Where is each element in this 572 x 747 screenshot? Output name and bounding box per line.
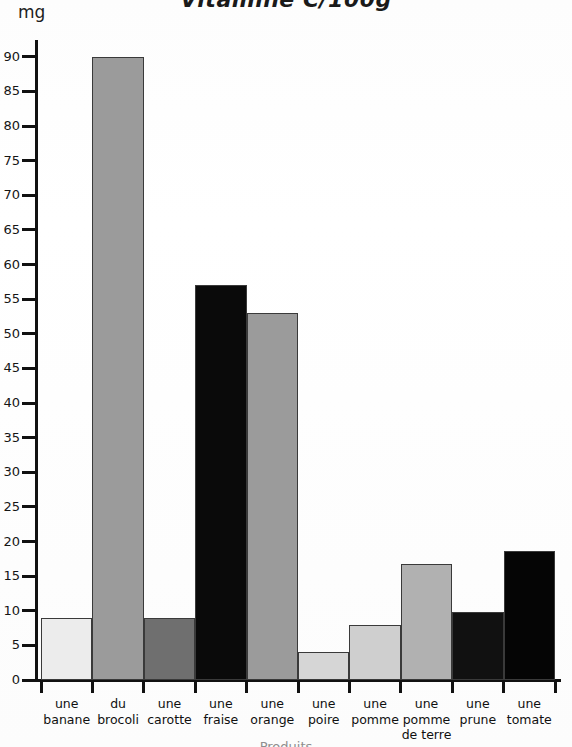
y-axis-tick (22, 55, 36, 58)
x-axis-category-label: unebanane (41, 696, 92, 727)
y-axis-tick-label: 10 (0, 604, 20, 617)
bar[interactable] (92, 57, 143, 680)
x-axis-tick (40, 680, 43, 693)
y-axis-tick-label: 90 (0, 50, 20, 63)
y-axis-tick (22, 194, 36, 197)
y-axis-line (35, 40, 38, 682)
x-axis-category-label-line: une (504, 696, 555, 712)
y-axis-tick (22, 125, 36, 128)
x-axis-category-label-line: tomate (504, 712, 555, 728)
y-axis-tick-label: 75 (0, 154, 20, 167)
x-axis-category-label-line: une (298, 696, 349, 712)
x-axis-tick (399, 680, 402, 693)
y-axis-tick (22, 436, 36, 439)
x-axis-category-label: unetomate (504, 696, 555, 727)
bar[interactable] (144, 618, 195, 680)
y-axis-tick-label: 45 (0, 361, 20, 374)
y-axis-tick-label: 85 (0, 84, 20, 97)
x-axis-category-label: uneprune (452, 696, 503, 727)
y-axis-tick-label: 20 (0, 535, 20, 548)
x-axis-tick (245, 680, 248, 693)
x-axis-category-label-line: poire (298, 712, 349, 728)
y-axis-tick-label: 65 (0, 223, 20, 236)
x-axis-category-label: unepommede terre (401, 696, 452, 743)
y-axis-tick (22, 402, 36, 405)
y-axis-tick (22, 263, 36, 266)
x-axis-tick (554, 680, 557, 693)
x-axis-tick (91, 680, 94, 693)
x-axis-tick (348, 680, 351, 693)
x-axis-category-label-line: orange (247, 712, 298, 728)
bar[interactable] (452, 612, 503, 680)
x-axis-category-label-line: prune (452, 712, 503, 728)
x-axis-category-label-line: carotte (144, 712, 195, 728)
x-axis-tick (451, 680, 454, 693)
x-axis-category-label-line: pomme (349, 712, 400, 728)
y-axis-tick (22, 228, 36, 231)
bar[interactable] (401, 564, 452, 680)
x-axis-tick (142, 680, 145, 693)
y-axis-tick (22, 505, 36, 508)
y-axis-tick (22, 90, 36, 93)
y-axis-tick-label: 70 (0, 188, 20, 201)
x-axis-category-label-line: une (144, 696, 195, 712)
x-axis-category-label-line: du (92, 696, 143, 712)
bar[interactable] (195, 285, 246, 680)
x-axis-category-label: unepomme (349, 696, 400, 727)
x-axis-category-label-line: fraise (195, 712, 246, 728)
y-axis-tick-label: 55 (0, 292, 20, 305)
y-axis-tick (22, 332, 36, 335)
x-axis-category-label-line: pomme (401, 712, 452, 728)
x-axis-category-label: dubrocoli (92, 696, 143, 727)
x-axis-category-label: unepoire (298, 696, 349, 727)
y-axis-tick (22, 575, 36, 578)
x-axis-category-label-line: une (247, 696, 298, 712)
y-axis-tick (22, 609, 36, 612)
x-axis-category-label-line: une (452, 696, 503, 712)
y-axis-tick (22, 644, 36, 647)
x-axis-category-label-line: une (349, 696, 400, 712)
y-axis-tick (22, 159, 36, 162)
x-axis-tick (502, 680, 505, 693)
y-axis-tick-label: 60 (0, 258, 20, 271)
x-axis-category-label-line: brocoli (92, 712, 143, 728)
y-axis-tick-label: 0 (0, 673, 20, 686)
y-axis-tick (22, 679, 36, 682)
x-axis-category-label: unefraise (195, 696, 246, 727)
chart-title: Vitamine C/100g (0, 0, 572, 12)
x-axis-category-label: unecarotte (144, 696, 195, 727)
y-axis-tick (22, 367, 36, 370)
y-axis-tick-label: 35 (0, 431, 20, 444)
y-axis-tick-label: 15 (0, 569, 20, 582)
x-axis-category-label-line: une (41, 696, 92, 712)
y-axis-tick-label: 80 (0, 119, 20, 132)
y-axis-tick (22, 471, 36, 474)
y-axis-tick-label: 25 (0, 500, 20, 513)
bar[interactable] (349, 625, 400, 680)
bar[interactable] (41, 618, 92, 680)
x-axis-category-label: uneorange (247, 696, 298, 727)
x-axis-category-label-line: banane (41, 712, 92, 728)
y-axis-tick (22, 540, 36, 543)
x-axis-caption: Produits (0, 739, 572, 747)
y-axis-tick-label: 50 (0, 327, 20, 340)
chart-page: Vitamine C/100g mg 051015202530354045505… (0, 0, 572, 747)
x-axis-category-label-line: une (401, 696, 452, 712)
bar[interactable] (504, 551, 555, 680)
y-axis-tick-label: 40 (0, 396, 20, 409)
x-axis-tick (297, 680, 300, 693)
bar[interactable] (298, 652, 349, 680)
plot-area (41, 43, 555, 680)
x-axis-category-label-line: une (195, 696, 246, 712)
bar[interactable] (247, 313, 298, 680)
x-axis-tick (194, 680, 197, 693)
y-axis-tick-label: 5 (0, 638, 20, 651)
y-axis-tick (22, 298, 36, 301)
y-axis-tick-label: 30 (0, 465, 20, 478)
y-axis-unit-label: mg (18, 2, 45, 22)
